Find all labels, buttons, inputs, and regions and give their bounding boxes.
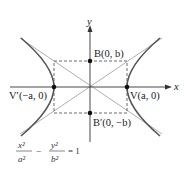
x-axis-arrow-icon: [165, 85, 172, 90]
vertex-left-label: V′(−a, 0): [9, 90, 47, 102]
co-vertex-bottom-label: B′(0, −b): [93, 117, 131, 129]
equation-equals: = 1: [68, 146, 80, 156]
co-vertex-bottom-point: [88, 111, 93, 116]
y-axis-label: y: [86, 16, 92, 27]
hyperbola-equation: x² a² − y² b² = 1: [16, 140, 80, 164]
x-axis-label: x: [173, 81, 179, 92]
co-vertex-top-label: B(0, b): [94, 48, 124, 60]
co-vertex-top-point: [88, 59, 93, 64]
equation-term2-denominator: b²: [51, 154, 59, 164]
equation-minus: −: [36, 146, 41, 156]
equation-term1-numerator: x²: [17, 140, 25, 150]
vertex-right-label: V(a, 0): [130, 90, 160, 102]
vertex-left-point: [52, 85, 57, 90]
equation-term1-denominator: a²: [18, 154, 26, 164]
equation-term2-numerator: y²: [50, 140, 58, 150]
hyperbola-diagram: x y B(0, b) B′(0, −b) V(a, 0) V′(−a, 0) …: [0, 0, 186, 175]
vertex-right-point: [125, 85, 130, 90]
